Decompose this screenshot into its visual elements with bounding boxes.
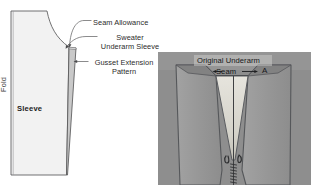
callout-line-2: Underarm Sleeve — [99, 42, 161, 51]
pattern-diagram: Seam Allowance Sweater Underarm Sleeve G… — [0, 0, 160, 189]
pattern-diagram-svg — [0, 0, 160, 189]
sleeve-label: Sleeve — [17, 104, 42, 113]
callout-line-2: Pattern — [90, 67, 158, 76]
callout-label-seam-allowance: Seam Allowance — [93, 18, 148, 27]
seam-allowance-strip — [69, 47, 76, 49]
right-body-panel — [242, 65, 291, 185]
photo-label-point-a: A — [262, 67, 267, 76]
callout-line-1: Sweater — [99, 33, 161, 42]
photo-label-seam: Seam — [216, 68, 236, 77]
callout-label-sweater-underarm-sleeve: Sweater Underarm Sleeve — [99, 33, 161, 51]
figure-root: Seam Allowance Sweater Underarm Sleeve G… — [0, 0, 320, 189]
sleeve-body-shape — [11, 11, 69, 175]
leader-sweater-underarm — [67, 37, 98, 48]
left-body-panel — [176, 65, 222, 185]
callout-line-1: Gusset Extension — [90, 58, 158, 67]
fold-label: Fold — [0, 77, 8, 92]
garment-photo-panel: Original Underarm Seam A — [158, 52, 311, 185]
photo-label-original-underarm: Original Underarm — [197, 57, 260, 66]
callout-label-gusset-extension-pattern: Gusset Extension Pattern — [90, 58, 158, 76]
leader-seam-allowance — [70, 21, 92, 46]
